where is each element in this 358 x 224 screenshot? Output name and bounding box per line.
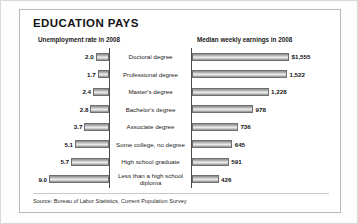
category-label: Associate degree (127, 123, 175, 130)
earnings-value-label: 736 (240, 123, 250, 130)
unemployment-bar (98, 70, 109, 78)
earnings-bar (192, 53, 289, 61)
earnings-value-label: 1,522 (289, 71, 304, 78)
unemployment-bar (71, 158, 109, 166)
chart-row: 1.7Professional degree1,522 (20, 66, 342, 84)
category-cell: Master's degree (110, 83, 191, 101)
unemployment-value-label: 2.4 (82, 88, 91, 95)
unemployment-bar (84, 123, 109, 131)
earnings-cell: 645 (192, 136, 342, 154)
earnings-bar (192, 88, 269, 96)
unemployment-cell: 5.7 (20, 153, 109, 171)
unemployment-value-label: 1.7 (87, 71, 96, 78)
unemployment-bar (93, 88, 109, 96)
unemployment-cell: 2.8 (20, 101, 109, 119)
unemployment-bar (75, 140, 109, 148)
category-label: High school graduate (121, 158, 179, 165)
earnings-cell: 1,522 (192, 66, 342, 84)
infographic-page: EDUCATION PAYS Unemployment rate in 2008… (0, 0, 358, 224)
earnings-cell: 591 (192, 153, 342, 171)
earnings-bar (192, 140, 232, 148)
category-label: Doctoral degree (128, 53, 172, 60)
category-label: Professional degree (123, 71, 178, 78)
footer-divider (33, 193, 329, 194)
earnings-value-label: $1,555 (292, 53, 311, 60)
unemployment-cell: 2.4 (20, 83, 109, 101)
earnings-bar (192, 123, 238, 131)
unemployment-bar (96, 53, 109, 61)
unemployment-cell: 2.0 (20, 48, 109, 66)
unemployment-value-label: 5.7 (60, 158, 69, 165)
unemployment-bar (90, 105, 109, 113)
unemployment-bar (49, 175, 109, 183)
chart-row: 5.1Some college, no degree645 (20, 136, 342, 154)
education-pays-panel: EDUCATION PAYS Unemployment rate in 2008… (19, 9, 341, 213)
category-label: Some college, no degree (116, 141, 185, 148)
unemployment-cell: 5.1 (20, 136, 109, 154)
unemployment-cell: 1.7 (20, 66, 109, 84)
chart-row: 9.0Less than a high school diploma426 (20, 171, 342, 189)
earnings-cell: 1,228 (192, 83, 342, 101)
category-cell: Doctoral degree (110, 48, 191, 66)
earnings-cell: 736 (192, 118, 342, 136)
category-label: Less than a high school diploma (113, 172, 188, 187)
category-cell: Some college, no degree (110, 136, 191, 154)
page-title: EDUCATION PAYS (33, 17, 139, 29)
category-cell: Bachelor's degree (110, 101, 191, 119)
earnings-cell: 978 (192, 101, 342, 119)
earnings-bar (192, 70, 287, 78)
right-column-header: Median weekly earnings in 2008 (197, 36, 292, 43)
earnings-value-label: 978 (256, 106, 266, 113)
earnings-bar (192, 175, 219, 183)
chart-row: 2.0Doctoral degree$1,555 (20, 48, 342, 66)
unemployment-cell: 3.7 (20, 118, 109, 136)
chart-row: 5.7High school graduate591 (20, 153, 342, 171)
left-column-header: Unemployment rate in 2008 (38, 36, 120, 43)
chart-row: 2.8Bachelor's degree978 (20, 101, 342, 119)
unemployment-value-label: 2.0 (85, 53, 94, 60)
source-note: Source: Bureau of Labor Statistics, Curr… (33, 198, 187, 204)
earnings-cell: 426 (192, 171, 342, 189)
earnings-value-label: 426 (221, 176, 231, 183)
chart-row: 2.4Master's degree1,228 (20, 83, 342, 101)
category-cell: Associate degree (110, 118, 191, 136)
chart-row: 3.7Associate degree736 (20, 118, 342, 136)
unemployment-value-label: 2.8 (80, 106, 89, 113)
earnings-bar (192, 105, 253, 113)
category-label: Bachelor's degree (126, 106, 176, 113)
earnings-value-label: 1,228 (271, 88, 286, 95)
earnings-value-label: 591 (231, 158, 241, 165)
category-cell: High school graduate (110, 153, 191, 171)
earnings-value-label: 645 (235, 141, 245, 148)
paired-bar-chart: 2.0Doctoral degree$1,5551.7Professional … (20, 48, 342, 188)
category-label: Master's degree (128, 88, 172, 95)
unemployment-value-label: 3.7 (74, 123, 83, 130)
category-cell: Less than a high school diploma (110, 171, 191, 189)
unemployment-value-label: 5.1 (64, 141, 73, 148)
earnings-bar (192, 158, 229, 166)
unemployment-cell: 9.0 (20, 171, 109, 189)
earnings-cell: $1,555 (192, 48, 342, 66)
unemployment-value-label: 9.0 (38, 176, 47, 183)
category-cell: Professional degree (110, 66, 191, 84)
